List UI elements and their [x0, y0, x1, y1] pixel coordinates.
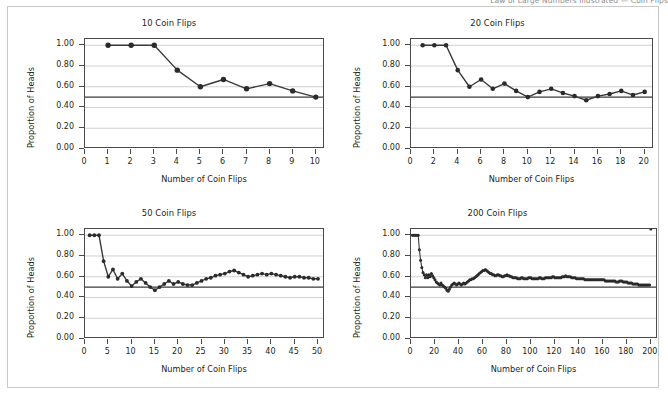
x-tick-mark [292, 149, 293, 154]
x-tick-mark [410, 149, 411, 154]
x-tick-mark [410, 339, 411, 344]
x-tick-mark [554, 339, 555, 344]
x-tick-mark [578, 339, 579, 344]
y-tick-label: 0.40 [42, 291, 74, 300]
y-tick-label: 1.00 [42, 229, 74, 238]
plot-area [410, 38, 653, 148]
x-axis-label: Number of Coin Flips [84, 174, 324, 184]
y-tick-label: 0.80 [368, 250, 400, 259]
y-tick-label: 0.80 [42, 60, 74, 69]
y-tick-label: 0.20 [42, 122, 74, 131]
series-line [423, 45, 645, 100]
plot-area [84, 228, 324, 338]
x-tick-mark [574, 149, 575, 154]
x-tick-label: 50 [302, 347, 332, 356]
x-tick-mark [315, 149, 316, 154]
x-tick-mark [482, 339, 483, 344]
chart-title: 50 Coin Flips [14, 208, 324, 218]
chart-title: 10 Coin Flips [14, 18, 324, 28]
x-tick-mark [222, 149, 223, 154]
x-tick-mark [644, 149, 645, 154]
x-axis-label: Number of Coin Flips [410, 364, 657, 374]
clipped-header-text: Law of Large Numbers Illustrated — Coin … [300, 0, 668, 5]
x-tick-mark [294, 339, 295, 344]
chart-page: Law of Large Numbers Illustrated — Coin … [0, 0, 668, 401]
x-tick-mark [650, 339, 651, 344]
x-tick-mark [602, 339, 603, 344]
y-tick-label: 1.00 [42, 39, 74, 48]
plot-area [410, 228, 657, 338]
chart-title: 200 Coin Flips [340, 208, 655, 218]
chart-title: 20 Coin Flips [340, 18, 655, 28]
x-tick-label: 200 [635, 347, 665, 356]
y-tick-label: 0.80 [42, 250, 74, 259]
x-tick-mark [434, 339, 435, 344]
chart-panel-50-coin-flips: 50 Coin FlipsProportion of HeadsNumber o… [14, 208, 324, 388]
chart-panel-20-coin-flips: 20 Coin FlipsProportion of HeadsNumber o… [340, 18, 655, 198]
y-tick-label: 0.60 [368, 81, 400, 90]
x-tick-mark [550, 149, 551, 154]
x-tick-mark [317, 339, 318, 344]
plot-area [84, 38, 324, 148]
y-tick-label: 0.40 [368, 101, 400, 110]
series-markers [88, 233, 320, 292]
y-tick-label: 0.60 [42, 271, 74, 280]
y-tick-label: 0.40 [42, 101, 74, 110]
y-tick-label: 0.60 [368, 271, 400, 280]
x-tick-mark [480, 149, 481, 154]
chart-panel-10-coin-flips: 10 Coin FlipsProportion of HeadsNumber o… [14, 18, 324, 198]
y-tick-label: 0.00 [368, 143, 400, 152]
x-tick-mark [506, 339, 507, 344]
x-tick-mark [433, 149, 434, 154]
x-tick-mark [457, 149, 458, 154]
x-tick-mark [530, 339, 531, 344]
y-tick-label: 0.00 [42, 143, 74, 152]
x-tick-mark [131, 339, 132, 344]
y-tick-label: 0.60 [42, 81, 74, 90]
x-tick-mark [626, 339, 627, 344]
x-tick-mark [201, 339, 202, 344]
x-tick-label: 20 [629, 157, 659, 166]
x-tick-mark [84, 339, 85, 344]
x-tick-mark [246, 149, 247, 154]
series-line [108, 45, 316, 97]
x-tick-mark [224, 339, 225, 344]
x-tick-mark [269, 149, 270, 154]
series-markers [411, 229, 652, 293]
y-tick-label: 0.40 [368, 291, 400, 300]
y-tick-label: 1.00 [368, 39, 400, 48]
x-tick-mark [154, 339, 155, 344]
y-tick-label: 1.00 [368, 229, 400, 238]
x-tick-mark [247, 339, 248, 344]
x-tick-mark [597, 149, 598, 154]
y-tick-label: 0.20 [368, 312, 400, 321]
x-tick-mark [177, 339, 178, 344]
x-axis-label: Number of Coin Flips [84, 364, 324, 374]
x-tick-mark [527, 149, 528, 154]
x-tick-label: 10 [300, 157, 330, 166]
y-tick-label: 0.80 [368, 60, 400, 69]
x-tick-mark [503, 149, 504, 154]
x-tick-mark [270, 339, 271, 344]
y-axis-label: Proportion of Heads [352, 67, 362, 148]
y-tick-label: 0.00 [368, 333, 400, 342]
y-axis-label: Proportion of Heads [26, 67, 36, 148]
series-line [90, 235, 318, 290]
series-line [412, 235, 649, 291]
x-tick-mark [458, 339, 459, 344]
y-tick-label: 0.20 [368, 122, 400, 131]
x-tick-mark [84, 149, 85, 154]
x-tick-mark [620, 149, 621, 154]
x-tick-mark [199, 149, 200, 154]
chart-panel-200-coin-flips: 200 Coin FlipsProportion of HeadsNumber … [340, 208, 655, 388]
y-tick-label: 0.00 [42, 333, 74, 342]
y-tick-label: 0.20 [42, 312, 74, 321]
x-tick-mark [107, 149, 108, 154]
y-axis-label: Proportion of Heads [352, 257, 362, 338]
y-axis-label: Proportion of Heads [26, 257, 36, 338]
series-markers [105, 43, 318, 100]
x-tick-mark [176, 149, 177, 154]
x-tick-mark [153, 149, 154, 154]
x-tick-mark [130, 149, 131, 154]
x-axis-label: Number of Coin Flips [410, 174, 653, 184]
